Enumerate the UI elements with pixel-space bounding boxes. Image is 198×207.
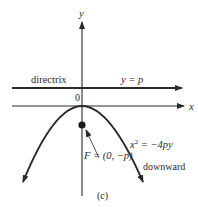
parabola-diagram: y directrix y = p x 0 F = (0, −p) x2 = −… (0, 0, 198, 207)
directrix-label: directrix (31, 74, 67, 85)
focus-point (78, 121, 85, 128)
origin-label: 0 (75, 92, 80, 103)
focus-label: F = (0, −p) (83, 150, 133, 162)
directrix-equation: y = p (120, 74, 143, 85)
figure-caption: (c) (97, 190, 108, 202)
x-axis-label: x (188, 100, 194, 112)
y-axis-label: y (78, 7, 84, 19)
parabola-curve (23, 106, 143, 182)
orientation-label: downward (143, 161, 185, 172)
equation-rest: = −4py (138, 139, 173, 150)
parabola-equation: x2 = −4py (129, 138, 173, 150)
